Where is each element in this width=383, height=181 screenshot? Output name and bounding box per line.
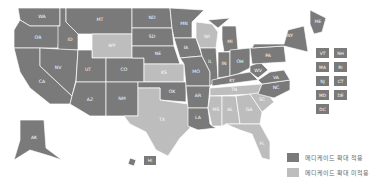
state-label-co: CO [121, 67, 128, 72]
state-label-nc: NC [273, 85, 280, 90]
state-label-in: IN [222, 61, 227, 66]
state-box-label-ct: CT [338, 79, 344, 84]
state-label-ak: AK [31, 135, 38, 140]
legend-not-expanded: 메디케이드 확대 미적용 [287, 166, 369, 179]
state-label-wy: WY [108, 43, 116, 48]
state-label-wa: WA [38, 14, 46, 19]
state-label-or: OR [35, 35, 43, 40]
state-label-nm: NM [118, 96, 125, 101]
state-label-ne: NE [155, 51, 161, 56]
state-label-sc: SC [259, 97, 265, 102]
state-box-label-md: MD [319, 93, 327, 98]
state-label-ut: UT [85, 67, 91, 72]
state-box-label-vt: VT [320, 51, 326, 56]
state-label-ks: KS [161, 70, 167, 75]
state-label-ok: OK [169, 89, 177, 94]
state-label-wi: WI [204, 34, 210, 39]
legend: 메디케이드 확대 적용 메디케이드 확대 미적용 [287, 151, 369, 181]
state-label-nd: ND [149, 15, 156, 20]
state-box-label-nh: NH [337, 51, 344, 56]
legend-label-expanded: 메디케이드 확대 적용 [305, 153, 363, 162]
state-label-sd: SD [149, 34, 156, 39]
state-box-label-dc: DC [319, 107, 325, 112]
state-label-ny: NY [287, 33, 293, 38]
legend-swatch-not-expanded [287, 168, 299, 177]
state-label-nv: NV [55, 65, 62, 70]
state-label-hi: HI [148, 158, 153, 163]
state-hi [92, 146, 136, 166]
state-label-mi: MI [227, 39, 232, 44]
state-label-ca: CA [39, 79, 46, 84]
legend-expanded: 메디케이드 확대 적용 [287, 151, 369, 164]
state-label-mo: MO [192, 69, 200, 74]
legend-label-not-expanded: 메디케이드 확대 미적용 [305, 168, 369, 177]
state-label-ms: MS [213, 107, 220, 112]
state-label-fl: FL [259, 141, 265, 146]
state-label-oh: OH [236, 59, 243, 64]
state-label-tx: TX [158, 117, 165, 122]
state-box-label-nj: NJ [320, 79, 325, 84]
state-label-mt: MT [97, 17, 104, 22]
state-box-label-ri: RI [338, 65, 342, 70]
state-label-pa: PA [265, 53, 271, 58]
state-label-wv: WV [254, 68, 263, 73]
state-label-ky: KY [229, 78, 235, 83]
state-label-ga: GA [246, 107, 254, 112]
legend-swatch-expanded [287, 153, 299, 162]
state-label-mn: MN [180, 21, 187, 26]
state-label-tn: TN [230, 87, 237, 92]
state-box-label-de: DE [337, 93, 343, 98]
state-label-me: ME [315, 19, 322, 24]
state-ak [14, 120, 62, 160]
state-label-il: IL [208, 59, 212, 64]
state-label-id: ID [68, 37, 73, 42]
state-label-ar: AR [195, 93, 202, 98]
state-label-va: VA [273, 75, 280, 80]
state-label-al: AL [227, 107, 233, 112]
state-box-label-ma: MA [319, 65, 326, 70]
state-label-az: AZ [87, 97, 93, 102]
state-label-la: LA [195, 115, 202, 120]
